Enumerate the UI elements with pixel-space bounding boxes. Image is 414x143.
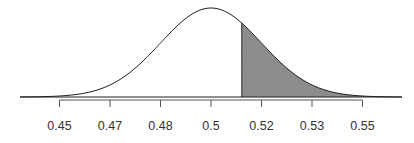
x-tick-label: 0.55 [350, 119, 374, 133]
normal-distribution-chart: 0.450.470.480.50.520.530.55 [0, 0, 414, 143]
x-tick-label: 0.47 [98, 119, 122, 133]
x-tick-label: 0.52 [249, 119, 273, 133]
x-tick-label: 0.48 [148, 119, 172, 133]
density-curve [20, 8, 402, 97]
shaded-tail-region [242, 23, 402, 97]
x-axis-ticks: 0.450.470.480.50.520.530.55 [47, 100, 374, 133]
x-tick-label: 0.45 [47, 119, 71, 133]
x-tick-label: 0.53 [300, 119, 324, 133]
x-tick-label: 0.5 [202, 119, 219, 133]
